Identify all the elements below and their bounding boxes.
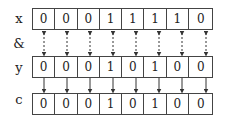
dashed-double-arrows (44, 33, 206, 54)
solid-down-arrows (44, 78, 206, 91)
connector-arrows (0, 0, 245, 121)
